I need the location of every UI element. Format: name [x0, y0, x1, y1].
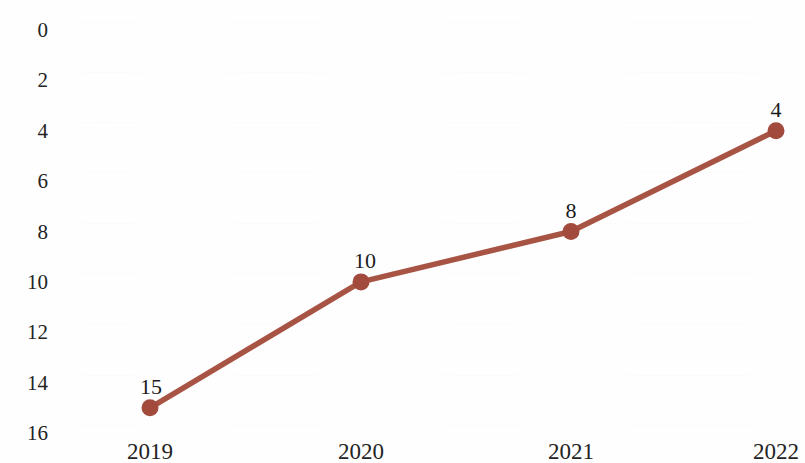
data-point-label: 8	[566, 200, 577, 222]
x-tick-label: 2021	[548, 440, 594, 463]
x-tick-label: 2022	[753, 440, 799, 463]
data-point-label: 4	[771, 99, 782, 121]
data-point-label: 10	[354, 250, 376, 272]
data-point-hit-area[interactable]	[764, 119, 788, 143]
x-axis: 2019202020212022	[0, 0, 805, 463]
line-chart: 0246810121416 2019202020212022 151084	[0, 0, 805, 463]
x-tick-label: 2019	[127, 440, 173, 463]
data-point-label: 15	[140, 376, 162, 398]
data-point-hit-area[interactable]	[559, 220, 583, 244]
x-tick-label: 2020	[338, 440, 384, 463]
data-point-hit-area[interactable]	[349, 270, 373, 294]
data-point-hit-area[interactable]	[138, 396, 162, 420]
